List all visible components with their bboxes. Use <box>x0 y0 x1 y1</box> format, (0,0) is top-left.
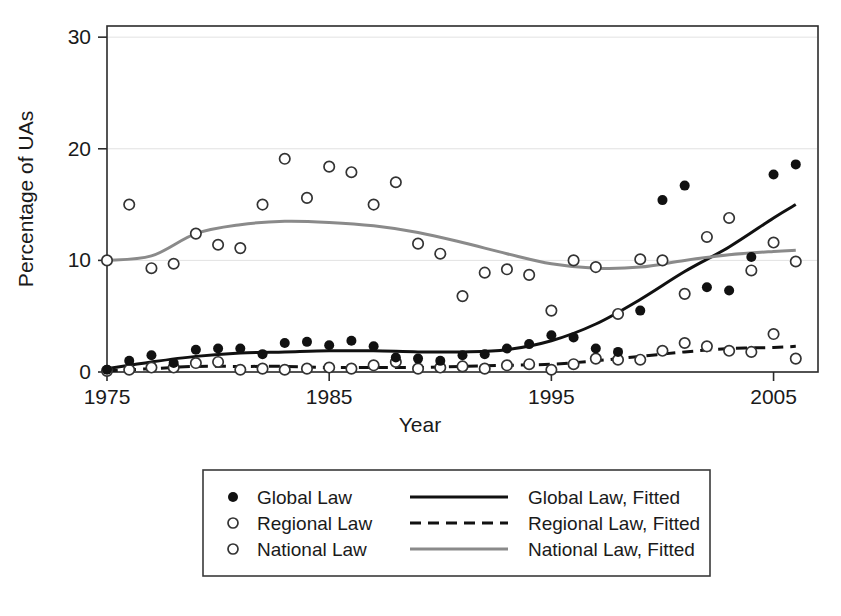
data-point <box>124 356 134 366</box>
data-point <box>502 264 512 274</box>
legend-marker-national-law <box>228 544 238 554</box>
plot-frame <box>107 26 818 372</box>
data-point <box>413 354 423 364</box>
data-point <box>457 361 467 371</box>
legend-marker-global-law <box>228 492 238 502</box>
data-point <box>124 365 134 375</box>
data-point <box>524 359 534 369</box>
data-point <box>457 291 467 301</box>
data-point <box>791 353 801 363</box>
data-point <box>524 339 534 349</box>
data-point <box>146 362 156 372</box>
legend-label-national-law: National Law <box>257 539 367 560</box>
data-point <box>680 181 690 191</box>
data-point <box>102 365 112 375</box>
data-point <box>169 358 179 368</box>
data-point <box>768 329 778 339</box>
y-axis: 0102030 <box>68 25 107 383</box>
data-point <box>635 254 645 264</box>
data-point <box>746 265 756 275</box>
data-point <box>591 353 601 363</box>
legend-label-national-law-fitted: National Law, Fitted <box>528 539 695 560</box>
fitted-curves <box>107 205 796 371</box>
data-point <box>657 255 667 265</box>
data-point <box>657 346 667 356</box>
data-point <box>235 344 245 354</box>
data-point <box>368 360 378 370</box>
series-points-global <box>102 159 801 374</box>
data-point <box>302 193 312 203</box>
series-points-national <box>102 154 801 320</box>
data-point <box>302 337 312 347</box>
legend-label-regional-law-fitted: Regional Law, Fitted <box>528 513 700 534</box>
data-point <box>213 344 223 354</box>
data-point <box>524 270 534 280</box>
data-point <box>569 332 579 342</box>
data-point <box>102 255 112 265</box>
y-tick-label-10: 10 <box>68 248 91 271</box>
data-point <box>435 356 445 366</box>
data-point <box>679 289 689 299</box>
y-tick-label-0: 0 <box>79 360 91 383</box>
x-tick-label-1985: 1985 <box>306 385 353 408</box>
x-axis-title: Year <box>399 413 441 436</box>
data-point <box>258 349 268 359</box>
data-point <box>235 365 245 375</box>
fit-line-regional-law-fitted <box>107 346 796 371</box>
data-point <box>280 338 290 348</box>
data-point <box>702 341 712 351</box>
data-point <box>480 267 490 277</box>
data-point <box>702 282 712 292</box>
data-point <box>324 362 334 372</box>
data-point <box>280 154 290 164</box>
data-point <box>613 347 623 357</box>
legend-label-regional-law: Regional Law <box>257 513 372 534</box>
data-point <box>346 167 356 177</box>
data-point <box>724 286 734 296</box>
data-point <box>502 360 512 370</box>
data-point <box>257 363 267 373</box>
data-point <box>568 359 578 369</box>
data-point <box>280 365 290 375</box>
data-point <box>591 344 601 354</box>
x-tick-label-2005: 2005 <box>750 385 797 408</box>
data-point <box>213 357 223 367</box>
legend-label-global-law-fitted: Global Law, Fitted <box>528 487 680 508</box>
data-point <box>546 330 556 340</box>
data-point <box>657 195 667 205</box>
data-point <box>746 347 756 357</box>
data-point <box>702 232 712 242</box>
data-point <box>591 262 601 272</box>
data-point <box>791 159 801 169</box>
data-point <box>635 355 645 365</box>
x-tick-label-1995: 1995 <box>528 385 575 408</box>
data-point <box>146 350 156 360</box>
figure-container: 0102030 1975198519952005 Year Percentage… <box>0 0 841 616</box>
data-point <box>413 363 423 373</box>
x-tick-label-1975: 1975 <box>84 385 131 408</box>
data-point <box>369 341 379 351</box>
data-point <box>768 237 778 247</box>
x-axis: 1975198519952005 <box>84 372 797 408</box>
data-point <box>391 352 401 362</box>
data-point <box>502 344 512 354</box>
data-point <box>413 238 423 248</box>
data-point <box>613 309 623 319</box>
data-point <box>724 346 734 356</box>
y-tick-label-20: 20 <box>68 137 91 160</box>
y-tick-label-30: 30 <box>68 25 91 48</box>
legend-label-global-law: Global Law <box>257 487 352 508</box>
data-point <box>568 255 578 265</box>
y-axis-title: Percentage of UAs <box>14 111 37 287</box>
data-point <box>124 199 134 209</box>
data-point <box>746 252 756 262</box>
data-point <box>546 305 556 315</box>
chart-svg: 0102030 1975198519952005 Year Percentage… <box>0 0 841 616</box>
data-point <box>213 240 223 250</box>
data-point <box>458 350 468 360</box>
data-point <box>346 336 356 346</box>
data-point <box>168 259 178 269</box>
data-point <box>324 340 334 350</box>
data-point <box>769 169 779 179</box>
data-point <box>480 363 490 373</box>
